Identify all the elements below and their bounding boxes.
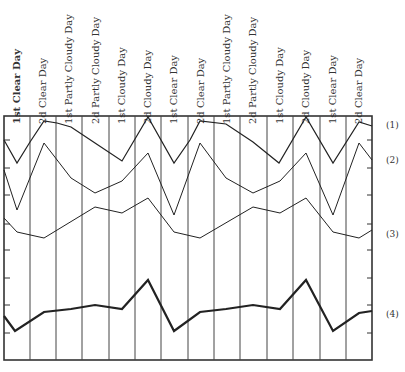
line-chart: [0, 0, 405, 372]
series-label: (4): [386, 309, 399, 319]
series-label: (3): [386, 229, 399, 239]
series-label: (2): [386, 155, 399, 165]
series-label: (1): [386, 120, 399, 130]
